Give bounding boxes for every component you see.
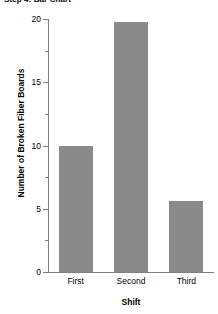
y-tick-minor bbox=[45, 177, 48, 178]
y-axis-line bbox=[48, 19, 49, 272]
y-tick-label: 0 bbox=[36, 268, 41, 277]
y-axis-title: Number of Broken Fiber Boards bbox=[16, 38, 26, 228]
chart-title: Step 4: Bar Chart bbox=[4, 0, 71, 4]
y-tick-major bbox=[43, 146, 48, 147]
y-tick-major bbox=[43, 272, 48, 273]
y-tick-label: 20 bbox=[32, 15, 41, 24]
bar bbox=[114, 22, 148, 272]
y-tick-label: 10 bbox=[32, 141, 41, 150]
bar-chart-figure: Step 4: Bar Chart 05101520 FirstSecondTh… bbox=[0, 0, 218, 314]
x-axis-title: Shift bbox=[48, 297, 214, 307]
x-axis-line bbox=[48, 272, 214, 273]
y-tick-major bbox=[43, 82, 48, 83]
y-tick-minor bbox=[45, 114, 48, 115]
y-tick-label: 15 bbox=[32, 78, 41, 87]
x-tick-label: Second bbox=[103, 276, 158, 286]
x-tick-label: Third bbox=[159, 276, 214, 286]
y-tick-major bbox=[43, 209, 48, 210]
y-tick-label: 5 bbox=[36, 204, 41, 213]
plot-area: 05101520 FirstSecondThird bbox=[48, 19, 214, 272]
y-tick-major bbox=[43, 19, 48, 20]
x-tick-label: First bbox=[48, 276, 103, 286]
bar bbox=[59, 146, 93, 273]
y-tick-minor bbox=[45, 240, 48, 241]
y-tick-minor bbox=[45, 51, 48, 52]
bar bbox=[169, 201, 203, 272]
